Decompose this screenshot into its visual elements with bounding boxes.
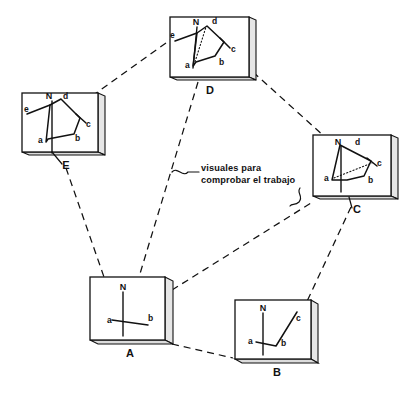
station-B[interactable]: N c b a B [235, 300, 318, 378]
leader-note-left-squiggle [172, 170, 199, 173]
sight-line-D-C [253, 72, 325, 137]
station-D[interactable]: N d e c b a D [170, 16, 256, 96]
station-E[interactable]: N d e c b a E [22, 91, 105, 171]
label-D-c: c [231, 44, 236, 54]
label-B-a: a [248, 336, 253, 346]
sight-line-E-A [66, 168, 104, 277]
label-C-a: a [324, 173, 329, 183]
station-C[interactable]: N d c b a C [313, 135, 398, 215]
label-C-c: c [377, 158, 382, 168]
plane-table-traverse-diagram: N d e c b a D N d e c b a E [0, 0, 413, 396]
sight-line-E-D [92, 38, 173, 96]
leader-note-right-squiggle [290, 188, 301, 206]
check-sight-lines-note: visuales para comprobar el trabajo [201, 163, 295, 186]
label-B-c: c [296, 313, 301, 323]
label-D-a: a [185, 60, 190, 70]
label-D-d: d [212, 16, 217, 26]
label-D-e: e [170, 30, 175, 40]
board-A-side-edge [165, 277, 173, 344]
label-E-a: a [38, 135, 43, 145]
sight-line-A-C [172, 203, 311, 290]
label-A-north: N [120, 282, 127, 292]
label-E-north: N [46, 91, 53, 101]
label-A-b: b [148, 313, 153, 323]
label-D-north: N [193, 17, 200, 27]
label-C-north: N [335, 137, 342, 147]
label-E-e: e [24, 104, 29, 114]
label-B-north: N [260, 303, 267, 313]
diagram-canvas: N d e c b a D N d e c b a E [0, 0, 413, 396]
sight-line-D-A [139, 82, 198, 277]
label-C-d: d [355, 137, 360, 147]
board-B-face [235, 300, 311, 359]
label-E-c: c [86, 119, 91, 129]
board-E-side-edge [98, 93, 105, 155]
station-A[interactable]: N a b A [90, 277, 173, 359]
board-C-side-edge [391, 135, 398, 199]
label-B-b: b [281, 338, 286, 348]
station-label-E: E [62, 159, 69, 171]
label-A-a: a [107, 315, 112, 325]
station-label-D: D [206, 84, 214, 96]
board-D-side-edge [249, 17, 256, 80]
note-line-1: visuales para [201, 163, 295, 175]
label-D-b: b [219, 57, 224, 67]
label-E-d: d [63, 91, 68, 101]
station-label-A: A [126, 347, 134, 359]
board-A-face [90, 277, 165, 340]
board-B-side-edge [311, 300, 318, 363]
station-label-C: C [353, 203, 361, 215]
label-C-b: b [368, 175, 373, 185]
sight-line-C-B [303, 207, 351, 310]
note-line-2: comprobar el trabajo [201, 175, 295, 187]
sight-line-A-B [172, 344, 233, 358]
board-D-face [170, 17, 249, 77]
label-E-b: b [75, 133, 80, 143]
station-label-B: B [273, 366, 281, 378]
